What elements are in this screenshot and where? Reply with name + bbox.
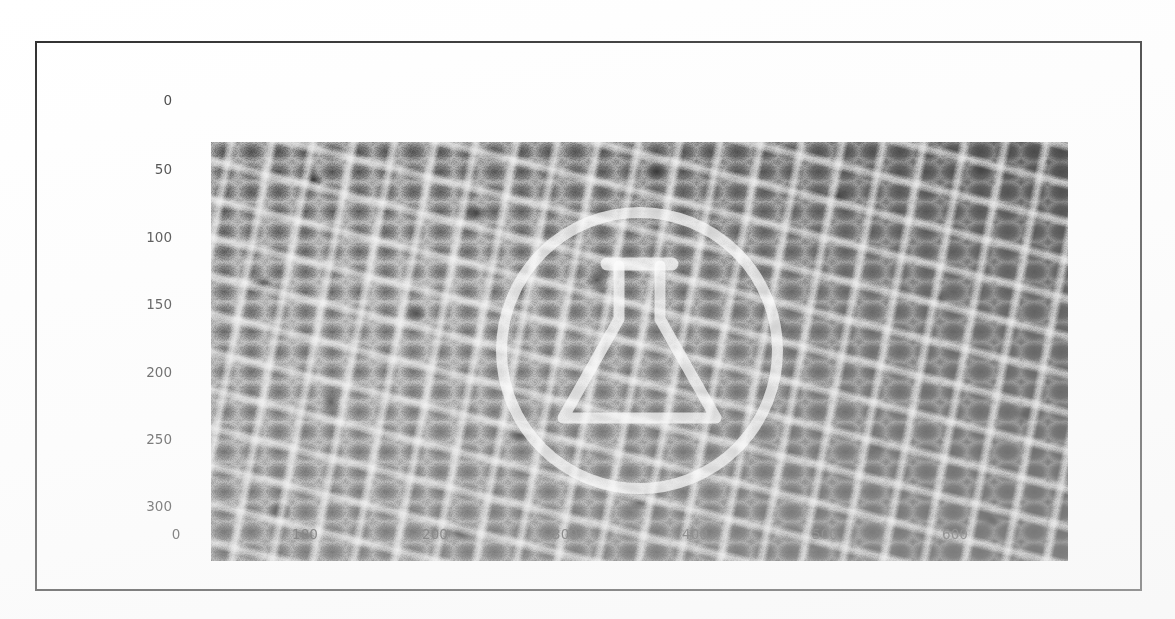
xtick-label: 0 <box>172 528 181 542</box>
figure-frame: 0 50 100 150 200 250 300 0 100 200 300 4… <box>35 41 1142 591</box>
ytick-label: 100 <box>142 231 172 245</box>
ytick-label: 50 <box>142 163 172 177</box>
ytick-label: 150 <box>142 298 172 312</box>
ytick-label: 300 <box>142 500 172 514</box>
xtick-label: 400 <box>682 528 708 542</box>
xtick-label: 500 <box>812 528 838 542</box>
image-axes[interactable] <box>211 142 1068 561</box>
xtick-label: 200 <box>422 528 448 542</box>
grayscale-cell-texture-image <box>211 142 1068 561</box>
screenshot-root: 0 50 100 150 200 250 300 0 100 200 300 4… <box>0 0 1175 619</box>
xtick-label: 300 <box>552 528 578 542</box>
xtick-label: 600 <box>942 528 968 542</box>
ytick-label: 200 <box>142 366 172 380</box>
ytick-label: 250 <box>142 433 172 447</box>
xtick-label: 100 <box>292 528 318 542</box>
ytick-label: 0 <box>142 94 172 108</box>
